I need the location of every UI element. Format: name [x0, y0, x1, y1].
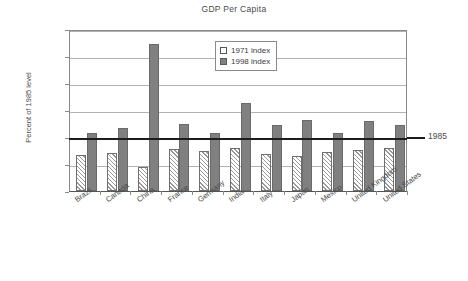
- bar-1998-india: [241, 103, 251, 191]
- bar-1998-france: [179, 124, 189, 191]
- bar-1998-china: [149, 44, 159, 191]
- reference-line-1985: [69, 138, 407, 140]
- bar-group: [384, 31, 405, 191]
- x-tick-mark: [192, 191, 193, 195]
- bar-1998-italy: [272, 125, 282, 191]
- x-tick-mark: [130, 191, 131, 195]
- x-tick-mark: [253, 191, 254, 195]
- reference-line-1985-label: 1985: [428, 131, 447, 141]
- bar-1971-china: [138, 167, 148, 191]
- bar-group: [107, 31, 128, 191]
- bar-1998-united-kingdom: [364, 121, 374, 191]
- bar-group: [76, 31, 97, 191]
- chart-title: GDP Per Capita: [0, 4, 468, 14]
- bar-1971-japan: [292, 156, 302, 191]
- bar-1998-brazil: [87, 133, 97, 191]
- bar-1971-united-kingdom: [353, 150, 363, 191]
- bar-1998-mexico: [333, 133, 343, 191]
- bar-1998-germany: [210, 133, 220, 191]
- bar-1998-japan: [302, 120, 312, 191]
- x-tick-mark: [223, 191, 224, 195]
- bar-1971-brazil: [76, 155, 86, 191]
- bar-1971-germany: [199, 151, 209, 191]
- x-tick-mark: [161, 191, 162, 195]
- y-tick-mark-300: [65, 30, 69, 31]
- bar-1971-united-states: [384, 148, 394, 191]
- bar-group: [292, 31, 313, 191]
- y-tick-mark-0: [65, 192, 69, 193]
- bar-1971-canada: [107, 153, 117, 191]
- x-tick-mark: [315, 191, 316, 195]
- reference-line-1985-extension: [407, 137, 425, 139]
- x-tick-mark: [284, 191, 285, 195]
- legend-item-1971: 1971 index: [220, 45, 270, 56]
- bar-group: [322, 31, 343, 191]
- legend-item-1998: 1998 index: [220, 56, 270, 67]
- bar-1971-india: [230, 148, 240, 191]
- bar-group: [353, 31, 374, 191]
- bar-1998-united-states: [395, 125, 405, 191]
- y-tick-mark-250: [65, 57, 69, 58]
- legend-swatch-1998-icon: [220, 58, 227, 65]
- x-tick-mark: [407, 191, 408, 195]
- bar-1971-france: [169, 149, 179, 191]
- legend-swatch-1971-icon: [220, 47, 227, 54]
- x-tick-mark: [346, 191, 347, 195]
- gdp-per-capita-chart: GDP Per Capita Percent of 1985 level 0%5…: [0, 0, 468, 281]
- bar-group: [138, 31, 159, 191]
- x-tick-mark: [376, 191, 377, 195]
- bar-1971-mexico: [322, 152, 332, 191]
- y-tick-mark-150: [65, 111, 69, 112]
- y-axis-title: Percent of 1985 level: [24, 28, 33, 188]
- y-tick-mark-200: [65, 84, 69, 85]
- legend-label-1971: 1971 index: [231, 46, 270, 55]
- y-tick-mark-50: [65, 165, 69, 166]
- legend-label-1998: 1998 index: [231, 57, 270, 66]
- chart-legend: 1971 index 1998 index: [215, 41, 277, 71]
- x-tick-mark: [100, 191, 101, 195]
- bar-group: [169, 31, 190, 191]
- bar-1971-italy: [261, 154, 271, 191]
